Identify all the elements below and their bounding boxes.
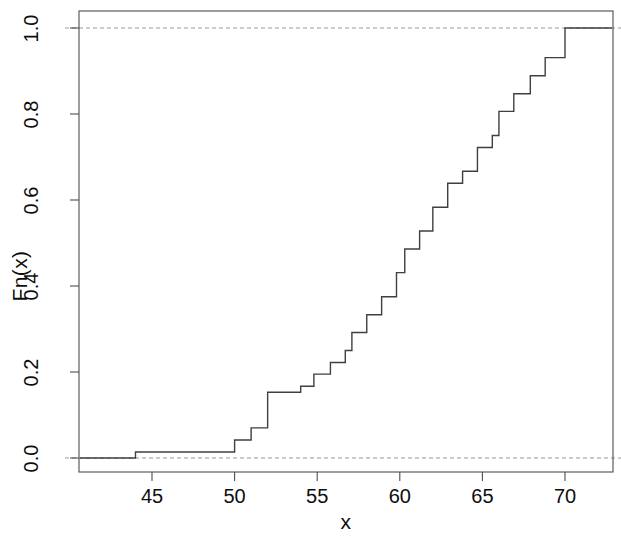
ecdf-step-curve-group xyxy=(80,28,612,458)
plot-frame-group xyxy=(79,11,613,472)
ecdf-plot: Fn(x) x 0.00.20.40.60.81.0 455055606570 xyxy=(0,0,621,542)
reference-lines-group xyxy=(65,28,621,458)
axis-tick-marks-group xyxy=(70,28,565,481)
plot-frame-box xyxy=(79,11,613,472)
plot-canvas xyxy=(0,0,621,542)
ecdf-step-curve xyxy=(80,28,612,458)
